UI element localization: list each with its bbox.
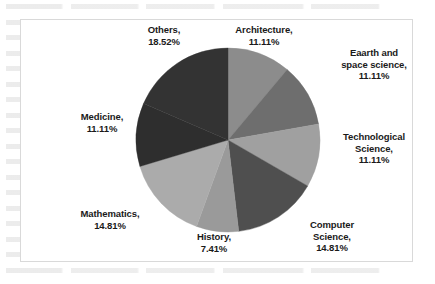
- pie-label-history: History, 7.41%: [176, 231, 252, 254]
- pie-label-computer-science: Computer Science, 14.81%: [286, 219, 378, 254]
- pie-label-medicine: Medicine, 11.11%: [56, 111, 148, 134]
- pie-slice-group: [136, 48, 320, 232]
- pie-label-earth-space-science: Eaarth and space science, 11.11%: [330, 47, 418, 82]
- pie-label-mathematics: Mathematics, 14.81%: [58, 208, 162, 231]
- pie-label-others: Others, 18.52%: [122, 24, 206, 47]
- pie-label-technological-science: Technological Science, 11.11%: [330, 131, 418, 166]
- pie-label-architecture: Architecture, 11.11%: [218, 24, 310, 47]
